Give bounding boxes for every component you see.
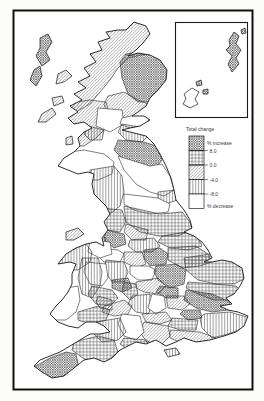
- legend-swatch-band-m8-m4: [189, 180, 204, 195]
- legend-swatch-band-0-8: [189, 151, 204, 166]
- legend-label-increase: % increase: [207, 140, 232, 146]
- legend-label-decrease: % decrease: [207, 203, 234, 209]
- legend-swatch-increase: [189, 136, 204, 151]
- map-figure: Total change % increase 8.0 0.0 -4.0 -8.…: [0, 0, 264, 401]
- inset-northern-isles: [176, 23, 248, 118]
- legend-label-8: 8.0: [210, 148, 217, 154]
- legend-swatch-decrease: [189, 194, 204, 209]
- legend-label-m4: -4.0: [210, 177, 219, 183]
- legend-label-0: 0.0: [210, 162, 217, 168]
- legend-title: Total change: [186, 126, 215, 132]
- legend-label-m8: -8.0: [210, 191, 219, 197]
- uk-choropleth-map: Total change % increase 8.0 0.0 -4.0 -8.…: [0, 0, 264, 401]
- legend-swatch-band-m4-0: [189, 165, 204, 180]
- island-arran: [66, 136, 73, 145]
- inset-orkney-isle-2: [203, 89, 208, 94]
